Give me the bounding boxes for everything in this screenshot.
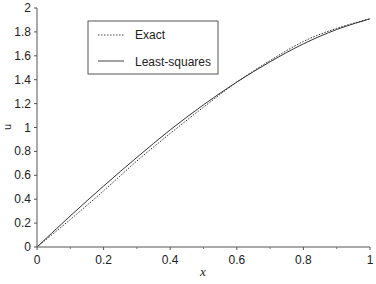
y-tick-label: 1 xyxy=(24,121,31,135)
y-tick-label: 0.8 xyxy=(14,144,31,158)
x-tick-label: 0 xyxy=(34,253,41,267)
x-tick-label: 0.6 xyxy=(228,253,245,267)
y-axis-label: u xyxy=(1,124,13,130)
y-axis: 00.20.40.60.811.21.41.61.82 xyxy=(14,1,37,254)
y-tick-label: 1.8 xyxy=(14,25,31,39)
y-tick-label: 1.2 xyxy=(14,97,31,111)
legend-label-exact: Exact xyxy=(135,28,166,42)
legend: Exact Least-squares xyxy=(88,21,218,74)
y-tick-label: 1.4 xyxy=(14,73,31,87)
x-tick-label: 1 xyxy=(367,253,374,267)
x-tick-label: 0.8 xyxy=(295,253,312,267)
chart: 00.20.40.60.811.21.41.61.82 00.20.40.60.… xyxy=(0,0,376,284)
y-tick-label: 0 xyxy=(24,240,31,254)
y-tick-label: 1.6 xyxy=(14,49,31,63)
y-tick-label: 2 xyxy=(24,1,31,15)
y-tick-label: 0.2 xyxy=(14,216,31,230)
x-tick-label: 0.2 xyxy=(95,253,112,267)
legend-label-least-squares: Least-squares xyxy=(135,55,211,69)
y-tick-label: 0.4 xyxy=(14,192,31,206)
x-tick-label: 0.4 xyxy=(162,253,179,267)
y-tick-label: 0.6 xyxy=(14,168,31,182)
x-axis-label: x xyxy=(199,264,206,279)
